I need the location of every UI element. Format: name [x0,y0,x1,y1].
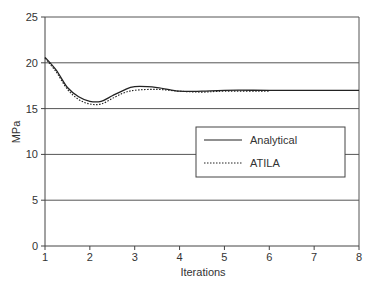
x-tick-label: 3 [132,251,138,263]
x-tick-label: 4 [177,251,183,263]
y-tick-label: 20 [26,57,38,69]
y-tick-labels: 0510152025 [26,11,38,252]
y-tick-label: 25 [26,11,38,23]
y-axis-label: MPa [10,120,22,144]
x-tick-label: 8 [356,251,362,263]
x-tick-label: 6 [266,251,272,263]
y-tick-label: 10 [26,148,38,160]
x-axis-label: Iterations [180,266,226,278]
x-tick-label: 5 [221,251,227,263]
y-tick-label: 0 [32,240,38,252]
legend-label-analytical: Analytical [250,134,297,146]
data-series [45,57,359,104]
x-tick-label: 1 [42,251,48,263]
legend-label-atila: ATILA [250,157,280,169]
y-tick-label: 5 [32,194,38,206]
x-tick-label: 7 [311,251,317,263]
series-line-analytical [45,57,359,102]
line-chart: 0510152025 12345678 MPa Iterations Analy… [0,0,372,287]
legend: Analytical ATILA [196,127,345,177]
x-tick-labels: 12345678 [42,251,362,263]
series-line-atila [45,58,269,104]
y-tick-label: 15 [26,103,38,115]
x-tick-label: 2 [87,251,93,263]
